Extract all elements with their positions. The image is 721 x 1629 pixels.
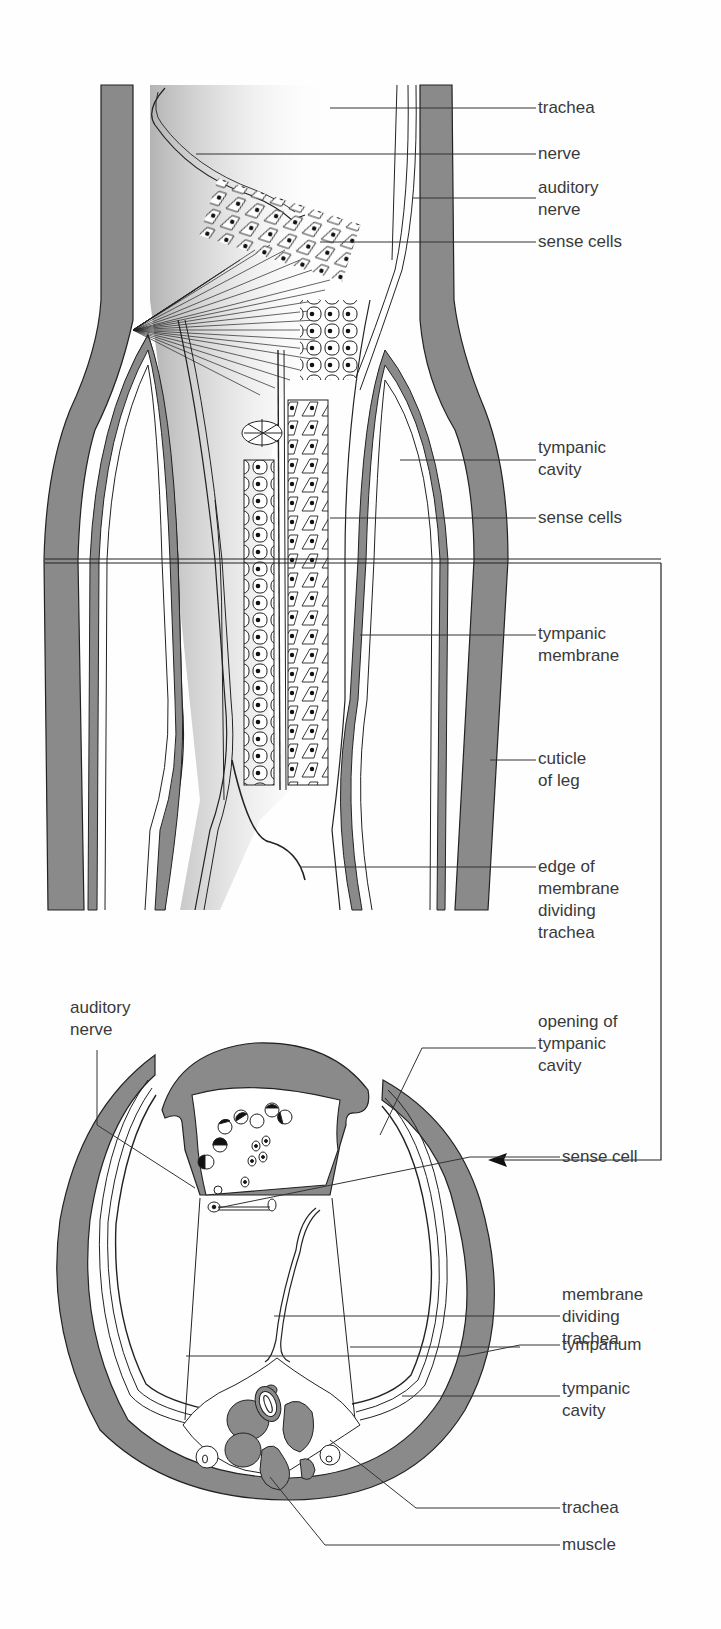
label-sense-cells-top: sense cells: [538, 231, 622, 253]
label-auditory-nerve-top: auditory nerve: [538, 177, 598, 221]
cross-section: [57, 1043, 495, 1500]
label-sense-cells-mid: sense cells: [538, 507, 622, 529]
longitudinal-section: [44, 85, 508, 910]
label-auditory-nerve-bottom: auditory nerve: [70, 997, 130, 1041]
label-trachea-bottom: trachea: [562, 1497, 619, 1519]
central-septum-2: [284, 350, 286, 790]
label-nerve: nerve: [538, 143, 581, 165]
sense-cell-column-right: [288, 400, 328, 785]
label-trachea-top: trachea: [538, 97, 595, 119]
label-sense-cell: sense cell: [562, 1146, 638, 1168]
label-tympanum: tympanum: [562, 1334, 641, 1356]
label-opening-of-tympanic-cavity: opening of tympanic cavity: [538, 1011, 617, 1077]
sense-cell-column-left: [244, 460, 274, 785]
label-edge-of-membrane: edge of membrane dividing trachea: [538, 856, 619, 944]
label-tympanic-cavity-top: tympanic cavity: [538, 437, 606, 481]
tympanum-right: [332, 1198, 355, 1420]
label-tympanic-membrane: tympanic membrane: [538, 623, 619, 667]
cuticle-right: [420, 85, 508, 910]
label-tympanic-cavity-bottom: tympanic cavity: [562, 1378, 630, 1422]
tympanum-left: [185, 1198, 200, 1420]
central-septum: [278, 350, 280, 790]
auditory-nerve-lines: [355, 85, 416, 390]
label-cuticle-of-leg: cuticle of leg: [538, 748, 586, 792]
tympanic-inner-left: [105, 365, 168, 910]
label-muscle: muscle: [562, 1534, 616, 1556]
